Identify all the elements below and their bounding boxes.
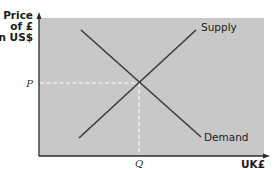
x-axis-label: UK£	[241, 158, 265, 170]
supply-label: Supply	[201, 21, 237, 33]
y-axis-label-line-3: in US$	[0, 31, 33, 43]
demand-label: Demand	[204, 131, 249, 143]
supply-demand-chart: Price of £ in US$ UK£ Supply Demand P Q	[0, 0, 277, 170]
p-tick-label: P	[25, 78, 33, 89]
y-axis-arrow-icon	[37, 12, 42, 19]
q-tick-label: Q	[135, 158, 143, 169]
